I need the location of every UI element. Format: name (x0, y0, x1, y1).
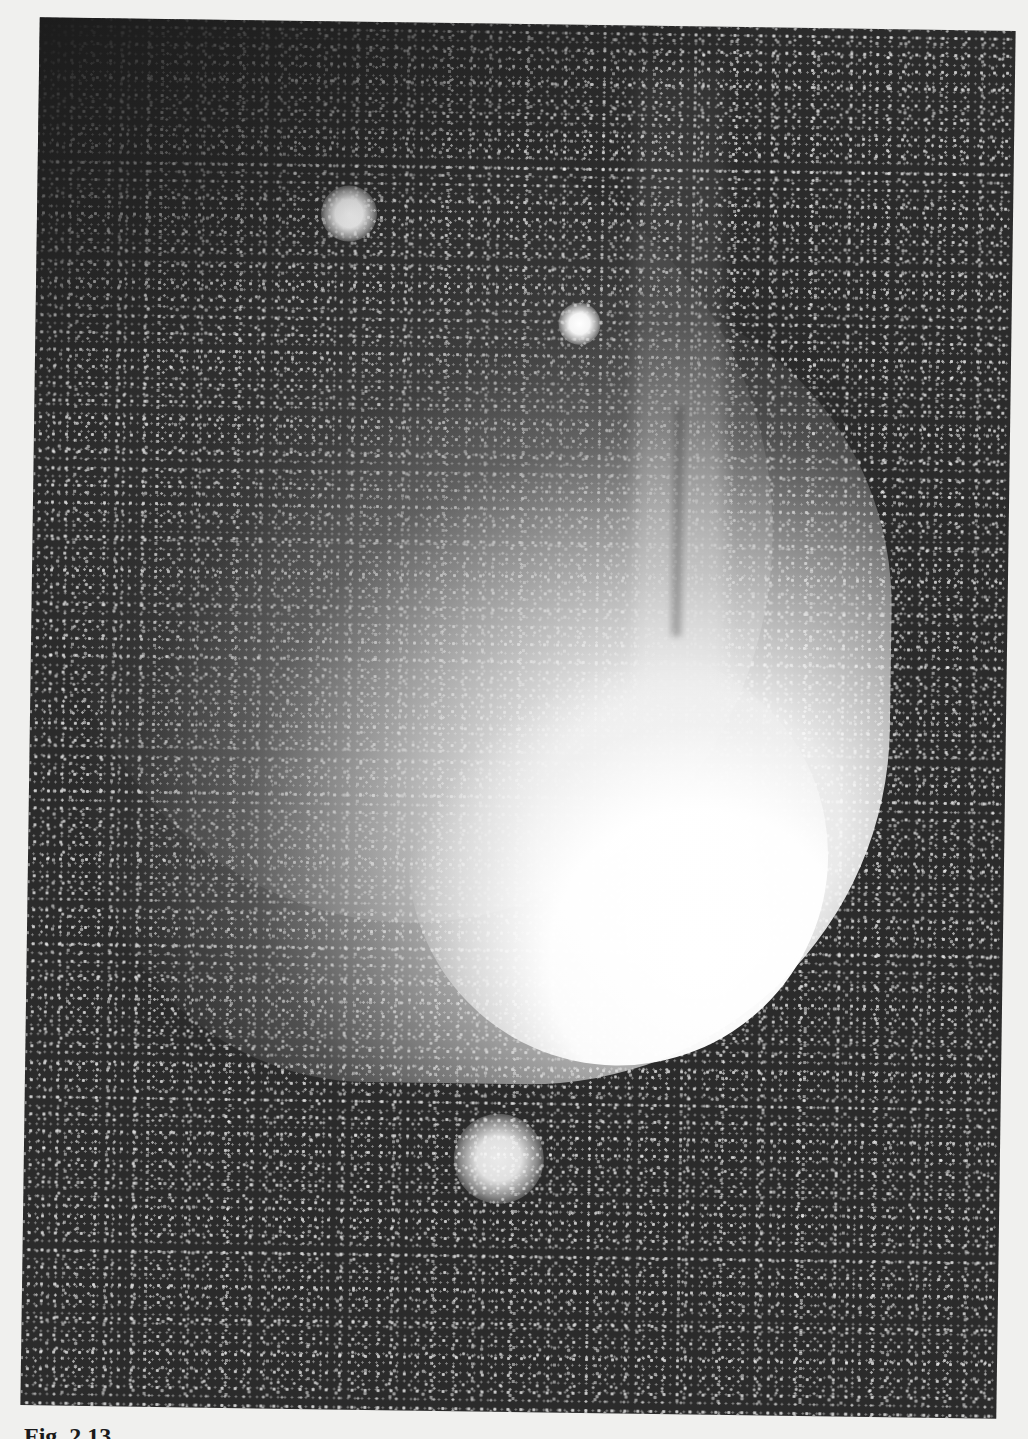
comet-photograph (20, 17, 1015, 1418)
figure-caption: Fig. 2.13 (24, 1424, 111, 1439)
page: Fig. 2.13 (0, 0, 1028, 1439)
corner-vignette (20, 17, 1015, 1418)
